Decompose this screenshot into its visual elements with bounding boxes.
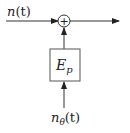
- block-diagram: n(t) + Ep nθ(t): [0, 0, 130, 133]
- noise-label: nθ(t): [51, 110, 80, 127]
- input-label: n(t): [7, 4, 31, 19]
- plus-sign: +: [59, 15, 68, 28]
